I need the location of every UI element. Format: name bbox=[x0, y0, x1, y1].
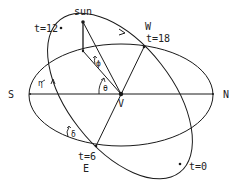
west-label: W bbox=[145, 21, 152, 32]
v-point bbox=[119, 92, 123, 96]
celestial-diagram: sun t=12 W t=18 S N V t=6 E t=0 θ ϕ η δ bbox=[0, 0, 234, 183]
east-label: E bbox=[83, 163, 89, 174]
t18-point bbox=[143, 46, 146, 49]
south-label: S bbox=[8, 89, 14, 100]
s-point bbox=[29, 93, 31, 95]
orbit-direction-arrow-icon bbox=[119, 29, 125, 35]
sun-label: sun bbox=[74, 6, 92, 17]
sun-point bbox=[81, 20, 85, 24]
eta-label: η bbox=[38, 79, 43, 88]
north-label: N bbox=[223, 89, 229, 100]
east-west-line bbox=[96, 47, 144, 146]
t0-point bbox=[179, 163, 182, 166]
t12-point bbox=[60, 27, 63, 30]
delta-arc bbox=[67, 127, 69, 137]
phi-arc bbox=[94, 57, 95, 64]
t6-label: t=6 bbox=[78, 151, 96, 162]
vertex-label: V bbox=[118, 98, 124, 109]
foot-point bbox=[82, 50, 84, 52]
t18-label: t=18 bbox=[146, 33, 170, 44]
t6-point bbox=[95, 145, 98, 148]
theta-label: θ bbox=[103, 84, 108, 93]
delta-label: δ bbox=[71, 130, 76, 139]
n-point bbox=[212, 93, 214, 95]
t12-label: t=12 bbox=[34, 23, 58, 34]
t0-label: t=0 bbox=[189, 161, 207, 172]
phi-label: ϕ bbox=[96, 59, 101, 68]
